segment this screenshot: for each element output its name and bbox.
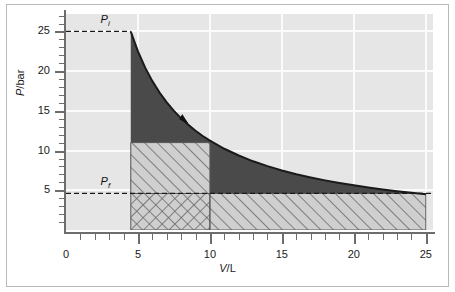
plot-area: [66, 14, 433, 230]
y-tick-minor: [59, 24, 65, 25]
x-tick-minor: [181, 234, 182, 240]
x-tick-major: [282, 234, 284, 244]
x-tick-minor: [296, 234, 297, 240]
y-axis-unit: /bar: [14, 70, 26, 89]
x-axis-unit: /L: [227, 262, 236, 274]
y-tick-minor: [59, 166, 65, 167]
pf-label: Pf: [101, 175, 111, 190]
y-tick-label: 25: [22, 24, 50, 36]
y-tick-minor: [59, 95, 65, 96]
y-tick-minor: [59, 79, 65, 80]
x-tick-major: [210, 234, 212, 244]
x-tick-minor: [167, 234, 168, 240]
x-tick-major: [426, 234, 428, 244]
y-tick-minor: [59, 63, 65, 64]
y-tick-major: [55, 71, 65, 73]
y-axis-title: P/bar: [14, 70, 26, 96]
y-tick-minor: [59, 198, 65, 199]
y-tick-minor: [59, 182, 65, 183]
y-tick-minor: [59, 135, 65, 136]
x-tick-minor: [383, 234, 384, 240]
y-tick-minor: [59, 214, 65, 215]
x-tick-minor: [267, 234, 268, 240]
y-tick-minor: [59, 159, 65, 160]
y-tick-minor: [59, 174, 65, 175]
pi-subscript: i: [108, 20, 110, 29]
x-tick-major: [354, 234, 356, 244]
x-tick-minor: [253, 234, 254, 240]
pv-isotherm-figure: 510152025 0510152025 P/bar V/L Pi Pf: [0, 0, 455, 292]
pi-symbol: P: [101, 13, 108, 25]
y-tick-minor: [59, 55, 65, 56]
x-tick-minor: [368, 234, 369, 240]
x-tick-minor: [95, 234, 96, 240]
x-tick-minor: [339, 234, 340, 240]
y-tick-label: 10: [22, 144, 50, 156]
y-tick-label: 20: [22, 64, 50, 76]
y-tick-minor: [59, 103, 65, 104]
y-axis-line: [64, 10, 66, 234]
data-layer: [66, 14, 433, 230]
irreversible-work-hatch-right: [210, 193, 426, 230]
y-tick-major: [55, 190, 65, 192]
x-axis-title: V/L: [0, 262, 455, 274]
x-tick-minor: [325, 234, 326, 240]
x-tick-label: 25: [411, 248, 441, 260]
x-axis-symbol: V: [219, 262, 226, 274]
x-axis-line: [64, 232, 435, 234]
y-tick-major: [55, 111, 65, 113]
y-tick-minor: [59, 119, 65, 120]
pi-label: Pi: [101, 13, 110, 28]
pf-subscript: f: [108, 182, 110, 191]
x-tick-label: 10: [195, 248, 225, 260]
x-tick-label: 15: [267, 248, 297, 260]
x-tick-major: [138, 234, 140, 244]
x-tick-minor: [196, 234, 197, 240]
reversible-work-hatch-left: [131, 143, 210, 194]
y-tick-minor: [59, 143, 65, 144]
pf-symbol: P: [101, 175, 108, 187]
x-tick-minor: [80, 234, 81, 240]
y-tick-major: [55, 151, 65, 153]
x-tick-label: 20: [339, 248, 369, 260]
x-tick-label: 0: [51, 248, 81, 260]
y-tick-minor: [59, 16, 65, 17]
y-tick-minor: [59, 47, 65, 48]
x-tick-minor: [109, 234, 110, 240]
y-tick-minor: [59, 127, 65, 128]
y-tick-minor: [59, 87, 65, 88]
y-tick-label: 15: [22, 104, 50, 116]
x-tick-minor: [397, 234, 398, 240]
overlap-crosshatch: [131, 193, 210, 230]
x-tick-minor: [124, 234, 125, 240]
y-tick-label: 5: [22, 183, 50, 195]
x-tick-minor: [152, 234, 153, 240]
x-tick-minor: [311, 234, 312, 240]
x-tick-minor: [411, 234, 412, 240]
x-tick-label: 5: [123, 248, 153, 260]
y-tick-minor: [59, 206, 65, 207]
y-axis-symbol: P: [14, 89, 26, 96]
y-tick-minor: [59, 39, 65, 40]
y-tick-major: [55, 31, 65, 33]
x-tick-minor: [239, 234, 240, 240]
y-tick-minor: [59, 222, 65, 223]
x-tick-minor: [224, 234, 225, 240]
